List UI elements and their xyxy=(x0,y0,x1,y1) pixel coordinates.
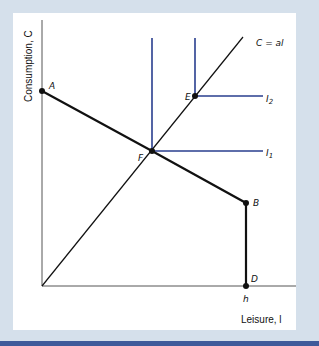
budget-constraint xyxy=(42,91,246,286)
indifference-curve-i1 xyxy=(152,38,263,151)
x-axis-label: Leisure, l xyxy=(241,314,282,325)
indifference-curve-i2 xyxy=(195,38,263,96)
label-d: D xyxy=(251,274,258,284)
ray-label: C = al xyxy=(256,38,284,48)
leisure-consumption-diagram: A F B D E h C = al I2 I1 Consumption, C … xyxy=(0,0,319,346)
point-b xyxy=(243,200,249,206)
label-i1: I1 xyxy=(266,148,273,160)
label-e: E xyxy=(185,92,191,102)
label-a: A xyxy=(48,81,55,91)
y-axis-label: Consumption, C xyxy=(23,30,34,102)
x-tick-h: h xyxy=(243,294,249,304)
label-f: F xyxy=(138,153,144,163)
point-f xyxy=(149,148,155,154)
label-b: B xyxy=(253,198,259,208)
point-e xyxy=(192,93,198,99)
point-d xyxy=(243,283,249,289)
point-a xyxy=(39,88,45,94)
label-i2: I2 xyxy=(266,94,274,106)
